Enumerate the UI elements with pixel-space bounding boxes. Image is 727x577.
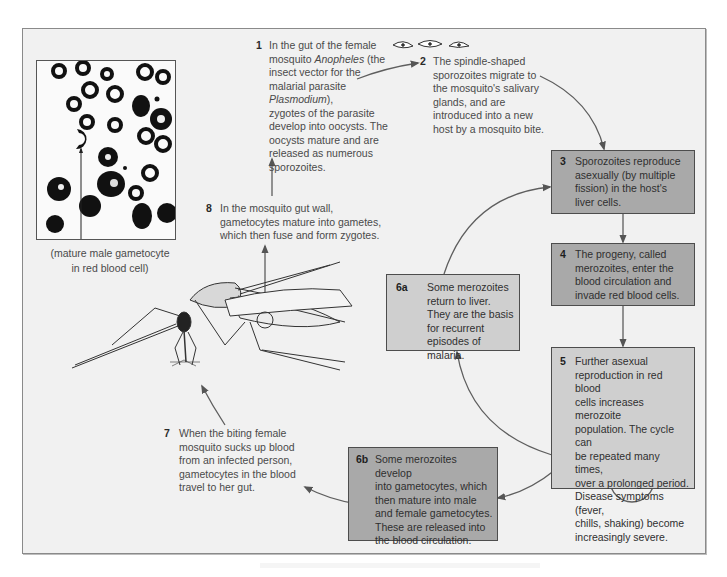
step-text-line: zygotes of the parasite xyxy=(269,107,396,121)
step-text-line: mosquito sucks up blood xyxy=(179,441,314,455)
step-number: 2 xyxy=(420,55,426,69)
step-number: 3 xyxy=(560,155,566,169)
mosquito-illustration xyxy=(72,262,352,370)
step-3-box: 3 Sporozoites reproduce asexually (by mu… xyxy=(551,150,695,214)
step-number: 1 xyxy=(256,39,262,53)
step-text-line: liver cells. xyxy=(575,196,688,210)
step-text-line: asexually (by multiple xyxy=(575,169,688,183)
step-number: 6a xyxy=(396,281,408,295)
step-text-line: episodes of malaria. xyxy=(427,335,515,362)
sporozoite-icons xyxy=(393,41,469,48)
step-5-box: 5 Further asexual reproduction in red bl… xyxy=(551,347,695,489)
step-text-line: merozoites, enter the xyxy=(575,262,688,276)
step-text-line: sporozoites migrate to xyxy=(433,69,560,83)
step-text-line: blood circulation and xyxy=(575,275,688,289)
step-text-line: the mosquito's salivary xyxy=(433,82,560,96)
step-text-line: released as numerous xyxy=(269,147,396,161)
step-text-line: chills, shaking) become xyxy=(575,517,690,531)
step-text-line: and female gametocytes. xyxy=(375,507,494,521)
step-text-line: Sporozoites reproduce xyxy=(575,155,688,169)
step-text-line: oocysts mature and are xyxy=(269,134,396,148)
step-text-line: invade red blood cells. xyxy=(575,289,688,303)
step-text-line: The progeny, called xyxy=(575,248,688,262)
step-text-line: develop into oocysts. The xyxy=(269,120,396,134)
step-text-line: then mature into male xyxy=(375,494,494,508)
step-text-line: introduced into a new xyxy=(433,109,560,123)
step-text-line: be repeated many times, xyxy=(575,450,690,477)
step-number: 7 xyxy=(164,427,170,441)
step-text-line: Some merozoites xyxy=(427,281,515,295)
step-text-line: sporozoites. xyxy=(269,161,396,175)
step-text-line: glands, and are xyxy=(433,96,560,110)
step-text-line: over a prolonged period. xyxy=(575,477,690,491)
step-text-line: insect vector for the xyxy=(269,66,396,80)
step-text-line: The spindle-shaped xyxy=(433,55,560,69)
step-4-box: 4 The progeny, called merozoites, enter … xyxy=(551,243,695,306)
step-7: 7 When the biting female mosquito sucks … xyxy=(164,427,314,495)
step-text-line: travel to her gut. xyxy=(179,481,314,495)
step-text-line: gametocytes in the blood xyxy=(179,468,314,482)
step-text-line: Disease symptoms (fever, xyxy=(575,490,690,517)
step-text-line: which then fuse and form zygotes. xyxy=(220,229,386,243)
step-text-line: reproduction in red blood xyxy=(575,369,690,396)
step-text-line: the blood circulation. xyxy=(375,534,494,548)
step-2: 2 The spindle-shaped sporozoites migrate… xyxy=(420,55,560,136)
step-text-line: into gametocytes, which xyxy=(375,480,494,494)
step-text-line: In the gut of the female xyxy=(269,39,396,53)
step-text-line: cells increases merozoite xyxy=(575,396,690,423)
step-6a-box: 6a Some merozoites return to liver. They… xyxy=(386,274,520,351)
step-8: 8 In the mosquito gut wall, gametocytes … xyxy=(206,202,386,243)
step-text-line: from an infected person, xyxy=(179,454,314,468)
step-text-line: malarial parasite Plasmodium), xyxy=(269,80,396,107)
step-text-line: for recurrent xyxy=(427,322,515,336)
step-text-line: Some merozoites develop xyxy=(375,453,494,480)
step-text-line: fission) in the host's xyxy=(575,182,688,196)
step-text-line: These are released into xyxy=(375,521,494,535)
step-text-line: host by a mosquito bite. xyxy=(433,123,560,137)
step-text-line: gametocytes mature into gametes, xyxy=(220,216,386,230)
step-text-line: mosquito Anopheles (the xyxy=(269,53,396,67)
step-number: 5 xyxy=(560,355,566,369)
step-number: 6b xyxy=(356,453,368,467)
step-6b-box: 6b Some merozoites develop into gametocy… xyxy=(348,447,498,541)
step-text-line: Further asexual xyxy=(575,355,690,369)
step-text-line: population. The cycle can xyxy=(575,423,690,450)
step-1: 1 In the gut of the female mosquito Anop… xyxy=(256,39,396,174)
step-number: 4 xyxy=(560,248,566,262)
step-text-line: They are the basis xyxy=(427,308,515,322)
step-number: 8 xyxy=(206,202,212,216)
step-text-line: increasingly severe. xyxy=(575,531,690,545)
step-text-line: return to liver. xyxy=(427,295,515,309)
step-text-line: When the biting female xyxy=(179,427,314,441)
step-text-line: In the mosquito gut wall, xyxy=(220,202,386,216)
